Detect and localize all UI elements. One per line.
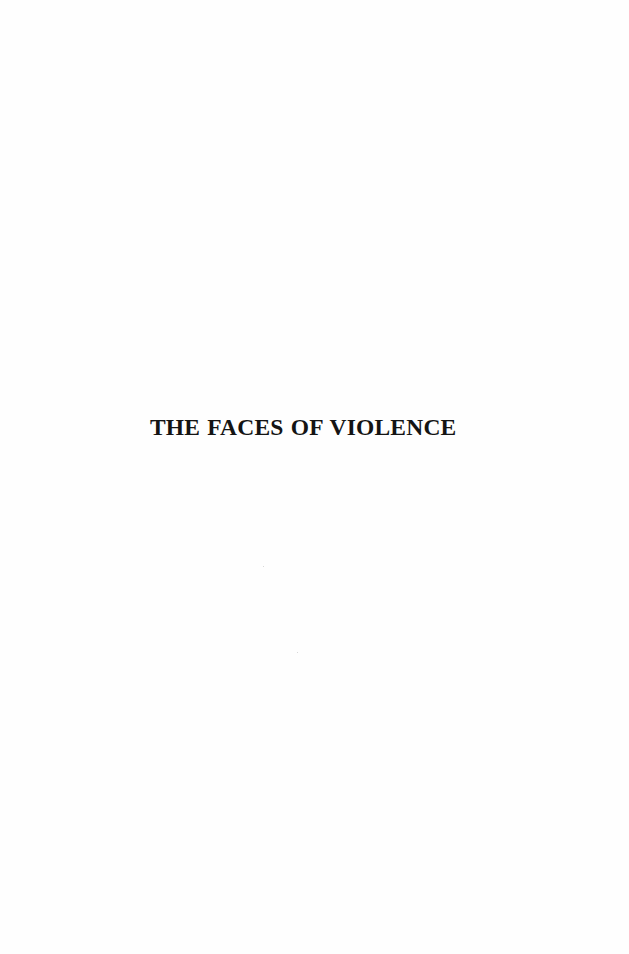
book-half-title-page: THE FACES OF VIOLENCE <box>0 0 629 954</box>
paper-speck <box>263 566 264 567</box>
paper-speck <box>297 652 298 653</box>
book-title: THE FACES OF VIOLENCE <box>150 413 450 441</box>
